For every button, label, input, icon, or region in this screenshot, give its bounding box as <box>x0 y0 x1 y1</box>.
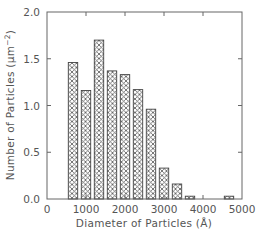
y-tick-label: 0.5 <box>23 146 40 158</box>
histogram-bar <box>172 184 181 199</box>
y-axis-tick-labels: 0.00.51.01.52.0 <box>23 6 40 205</box>
x-tick-label: 4000 <box>190 203 217 215</box>
histogram-chart: 0.00.51.01.52.0 010002000300040005000 Di… <box>0 0 257 238</box>
x-axis-label: Diameter of Particles (Å) <box>76 217 212 229</box>
x-axis-tick-labels: 010002000300040005000 <box>44 203 256 215</box>
histogram-bar <box>68 63 77 200</box>
histogram-bar <box>120 75 129 199</box>
x-tick-label: 3000 <box>151 203 178 215</box>
histogram-bar <box>107 71 116 199</box>
y-tick-label: 1.0 <box>23 100 40 112</box>
bars-group <box>68 40 233 199</box>
y-tick-label: 1.5 <box>23 53 40 65</box>
x-tick-label: 1000 <box>73 203 100 215</box>
histogram-bar <box>133 90 142 199</box>
y-axis-label-main: Number of Particles (μm <box>4 46 16 180</box>
y-tick-label: 0.0 <box>23 193 40 205</box>
histogram-bar <box>94 40 103 199</box>
x-tick-label: 2000 <box>112 203 139 215</box>
y-tick-label: 2.0 <box>23 6 40 18</box>
x-tick-label: 0 <box>44 203 51 215</box>
x-tick-label: 5000 <box>229 203 256 215</box>
y-axis-label: Number of Particles (μm−2) <box>3 30 16 181</box>
histogram-bar <box>146 109 155 199</box>
histogram-bar <box>159 168 168 199</box>
histogram-bar <box>81 91 90 200</box>
y-axis-label-superscript: −2 <box>3 34 12 46</box>
y-axis-label-close: ) <box>4 30 16 34</box>
